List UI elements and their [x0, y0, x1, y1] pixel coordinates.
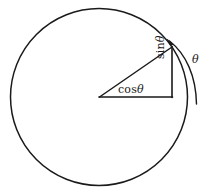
- angle-theta-label: θ: [192, 54, 199, 65]
- sine-label: sinθ: [155, 35, 166, 59]
- cosine-label: cosθ: [118, 84, 144, 95]
- unit-circle-diagram: cosθ sinθ θ: [0, 0, 218, 194]
- diagram-canvas: [0, 0, 218, 194]
- cosine-label-prefix: cos: [118, 83, 137, 96]
- sine-label-prefix: sin: [154, 42, 167, 59]
- sine-label-symbol: θ: [154, 35, 167, 42]
- cosine-label-symbol: θ: [137, 83, 144, 96]
